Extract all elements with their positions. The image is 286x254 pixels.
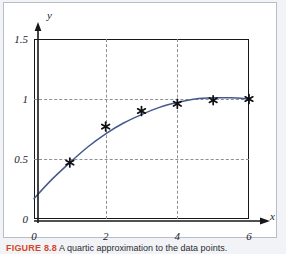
plot-area: 00.511.5 0246 xyxy=(34,39,249,219)
y-tick-label: 1 xyxy=(0,93,28,105)
figure-caption-text: A quartic approximation to the data poin… xyxy=(59,243,227,253)
data-point-marker xyxy=(102,122,110,131)
plot-canvas xyxy=(34,39,249,219)
y-tick-label: 0 xyxy=(0,213,28,225)
x-tick-label: 4 xyxy=(175,230,181,242)
x-tick-label: 6 xyxy=(246,230,252,242)
data-point-markers xyxy=(66,95,253,167)
x-axis-arrow xyxy=(32,211,272,231)
y-axis-label: y xyxy=(47,9,52,21)
y-axis-arrow xyxy=(34,21,48,225)
y-tick-label: 0.5 xyxy=(0,153,28,165)
figure-caption-tag: FIGURE 8.8 xyxy=(6,243,57,253)
page-background: 00.511.5 0246 y x FIGURE 8.8 A quartic a… xyxy=(0,0,286,254)
figure-caption: FIGURE 8.8 A quartic approximation to th… xyxy=(6,243,282,254)
x-tick-label: 0 xyxy=(31,230,37,242)
y-tick-label: 1.5 xyxy=(0,33,28,45)
x-axis-label: x xyxy=(270,210,275,222)
figure-container: 00.511.5 0246 y x xyxy=(3,2,277,238)
x-tick-label: 2 xyxy=(103,230,109,242)
